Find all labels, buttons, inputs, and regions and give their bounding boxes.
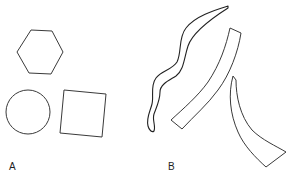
panel-a <box>6 30 106 137</box>
square-shape <box>60 90 106 137</box>
straight-strip-shape <box>171 28 241 129</box>
panel-label-b: B <box>168 162 175 172</box>
horn-strip-shape <box>230 76 286 167</box>
panel-b <box>147 6 286 167</box>
panel-label-a: A <box>9 162 16 172</box>
circle-shape <box>6 90 50 134</box>
figure-canvas <box>0 0 289 186</box>
hexagon-shape <box>17 30 63 74</box>
